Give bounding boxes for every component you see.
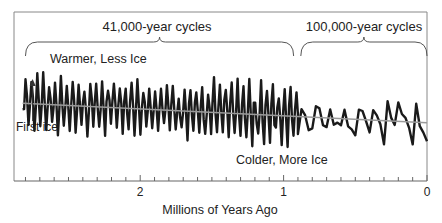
label-warmer: Warmer, Less Ice: [50, 52, 147, 66]
x-axis-label: Millions of Years Ago: [162, 203, 277, 217]
series-climate-record: [23, 72, 427, 147]
bracket-100k: [301, 37, 427, 56]
label-41k-cycles: 41,000-year cycles: [102, 19, 212, 34]
x-tick-label: 2: [137, 185, 144, 199]
x-tick-labels: 210: [137, 185, 431, 199]
chart: 210 41,000-year cycles 100,000-year cycl…: [0, 0, 442, 223]
label-100k-cycles: 100,000-year cycles: [306, 19, 423, 34]
x-ticks: [25, 175, 427, 181]
label-colder: Colder, More Ice: [236, 153, 328, 167]
x-tick-label: 1: [280, 185, 287, 199]
x-tick-label: 0: [424, 185, 431, 199]
